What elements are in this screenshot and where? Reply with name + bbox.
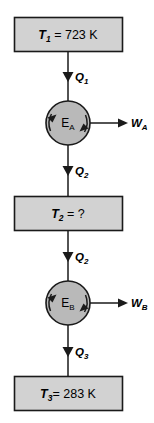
- heat-flow-label-q2-upper: Q2: [75, 165, 89, 180]
- diagram-canvas: T1 = 723 K EA T2 = ? EB T3= 283 K: [0, 0, 154, 423]
- heat-arrow-head-q1: [63, 72, 74, 82]
- heat-flow-symbol-q3: Q: [75, 346, 84, 358]
- heat-arrow-head-q2-upper: [63, 166, 74, 176]
- heat-flow-label-q1: Q1: [75, 71, 89, 86]
- work-arrow-head-b: [118, 299, 128, 308]
- reservoir-value-top: 723 K: [65, 28, 98, 42]
- engine-symbol-b: E: [61, 296, 69, 310]
- work-output-subscript-b: B: [142, 303, 148, 312]
- thermodynamics-diagram: T1 = 723 K EA T2 = ? EB T3= 283 K: [0, 0, 154, 423]
- heat-arrow-head-q2-lower: [63, 252, 74, 262]
- reservoir-label-middle: T2 = ?: [51, 207, 85, 223]
- heat-flow-symbol-q1: Q: [75, 71, 84, 83]
- work-output-subscript-a: A: [141, 123, 148, 132]
- work-output-label-a: WA: [131, 117, 148, 132]
- heat-arrow-head-q3: [63, 347, 74, 357]
- heat-flow-subscript-q3: 3: [84, 352, 89, 361]
- reservoir-value-bottom: 283 K: [63, 387, 96, 401]
- heat-flow-label-q3: Q3: [75, 346, 89, 361]
- reservoir-value-middle: ?: [78, 207, 85, 221]
- work-output-label-b: WB: [131, 297, 148, 312]
- heat-flow-subscript-q2-upper: 2: [83, 171, 89, 180]
- heat-flow-subscript-q1: 1: [84, 77, 89, 86]
- reservoir-equals-top: =: [51, 28, 65, 42]
- engine-subscript-b: B: [69, 303, 74, 312]
- heat-flow-subscript-q2-lower: 2: [83, 257, 89, 266]
- reservoir-equals-middle: =: [64, 207, 78, 221]
- work-arrow-head-a: [118, 119, 128, 128]
- heat-flow-symbol-q2-upper: Q: [75, 165, 84, 177]
- heat-flow-label-q2-lower: Q2: [75, 251, 89, 266]
- engine-subscript-a: A: [69, 123, 75, 132]
- reservoir-equals-bottom: =: [52, 387, 63, 401]
- engine-symbol-a: E: [61, 116, 69, 130]
- heat-flow-symbol-q2-lower: Q: [75, 251, 84, 263]
